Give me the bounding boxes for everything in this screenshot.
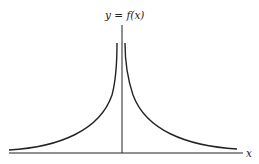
x-axis-label: x (246, 147, 252, 159)
function-graph: y = f(x) x (0, 0, 259, 164)
curve-right-branch (125, 43, 237, 149)
curve-left-branch (9, 43, 117, 150)
y-axis-label: y = f(x) (104, 9, 144, 21)
